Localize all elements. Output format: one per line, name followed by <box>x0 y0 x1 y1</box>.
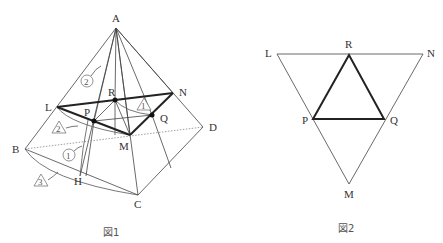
label-A: A <box>112 12 120 24</box>
label-D: D <box>209 121 217 133</box>
edge-AB <box>25 28 116 149</box>
label-L: L <box>45 101 52 113</box>
leader-2 <box>91 66 101 76</box>
circle-mark-1: 1 <box>63 146 82 161</box>
edge-BD-hidden <box>25 127 203 149</box>
fig2-label-P: P <box>302 114 308 126</box>
fig2-label-Q: Q <box>390 114 398 126</box>
svg-text:1: 1 <box>66 151 71 161</box>
label-B: B <box>12 143 19 155</box>
label-Q: Q <box>160 112 168 124</box>
line-AN <box>116 28 173 93</box>
label-N: N <box>179 86 187 98</box>
fig2-label-M: M <box>344 188 354 200</box>
triangle-mark-1: 1 <box>137 98 151 111</box>
svg-text:2: 2 <box>84 77 89 87</box>
figure-2: L R N P Q M 図2 <box>265 38 435 234</box>
point-P-dot <box>92 119 97 124</box>
point-Q-dot <box>150 113 155 118</box>
figure-1: A L N R P Q M B D C H 2 1 1 2 <box>12 12 217 238</box>
edge-CD <box>138 127 203 195</box>
svg-text:3: 3 <box>38 177 43 187</box>
label-M: M <box>119 140 129 152</box>
label-C: C <box>134 198 141 210</box>
svg-text:2: 2 <box>56 124 61 134</box>
edge-BC <box>25 149 138 195</box>
caption-figure-2: 図2 <box>338 223 354 234</box>
label-P: P <box>84 106 90 118</box>
label-R: R <box>108 86 116 98</box>
fig2-label-L: L <box>265 47 272 59</box>
caption-figure-1: 図1 <box>103 227 119 238</box>
label-H: H <box>74 175 82 187</box>
fig2-label-N: N <box>427 47 435 59</box>
point-R-dot <box>113 98 118 103</box>
diagram-canvas: A L N R P Q M B D C H 2 1 1 2 <box>0 0 443 243</box>
leader-1 <box>74 146 82 151</box>
triangle-mark-2: 2 <box>52 121 78 134</box>
circle-mark-2: 2 <box>81 66 101 87</box>
fig2-label-R: R <box>345 38 353 50</box>
triangle-RPQ <box>313 55 384 119</box>
svg-text:1: 1 <box>141 101 146 111</box>
line-P-H <box>86 121 94 176</box>
leader-tri2 <box>66 126 78 128</box>
leader-tri3 <box>48 172 58 180</box>
triangle-mark-3: 3 <box>34 172 58 187</box>
